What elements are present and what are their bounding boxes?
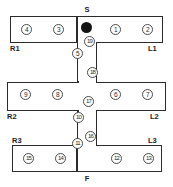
start-position-marker [81,22,92,33]
node-3: 3 [53,24,64,35]
node-8: 8 [52,89,63,100]
node-5: 5 [72,48,83,59]
node-2: 2 [142,24,153,35]
arm-label-l1: L1 [148,44,157,53]
arm-r3-corridor [12,145,77,172]
start-label: S [82,5,92,14]
junction-opening-top-right [95,17,97,42]
arm-label-r2: R2 [7,112,17,121]
node-19: 19 [84,36,95,47]
arm-label-r3: R3 [12,136,22,145]
node-1: 1 [110,24,121,35]
junction-opening-bottom-left [78,146,80,171]
node-14: 14 [55,153,66,164]
arm-label-r1: R1 [10,44,20,53]
node-15: 15 [23,153,34,164]
maze-diagram: 4 3 1 2 19 5 18 9 8 6 7 17 10 16 11 15 1… [0,0,173,187]
node-7: 7 [142,89,153,100]
arm-label-l3: L3 [148,136,157,145]
junction-opening-top-left [78,17,80,42]
node-6: 6 [110,89,121,100]
finish-label: F [82,174,92,183]
node-10: 10 [73,112,84,123]
junction-opening-mid-lower [79,109,96,112]
arm-label-l2: L2 [150,112,159,121]
node-11: 11 [72,138,83,149]
node-18: 18 [87,67,98,78]
node-4: 4 [21,24,32,35]
node-13: 13 [143,153,154,164]
node-9: 9 [20,89,31,100]
node-16: 16 [85,131,96,142]
node-12: 12 [111,153,122,164]
junction-opening-mid-upper [79,81,96,84]
node-17: 17 [83,96,94,107]
junction-opening-bottom-right [95,146,97,171]
